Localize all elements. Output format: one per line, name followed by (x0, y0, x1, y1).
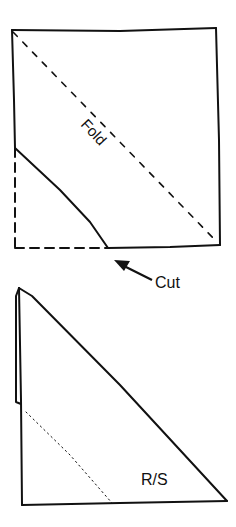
cut-arrow-icon (114, 260, 152, 280)
square-top-edge (12, 28, 216, 31)
square-left-edge-solid (12, 30, 15, 148)
square-step (12, 28, 220, 248)
cut-line (15, 148, 108, 248)
triangle-left-edge (19, 288, 22, 505)
fold-label: Fold (78, 115, 110, 148)
triangle-hypotenuse (19, 288, 227, 501)
square-bottom-edge-solid (108, 245, 220, 248)
triangle-bottom-edge (22, 501, 227, 505)
square-right-edge (216, 28, 220, 245)
cut-label: Cut (155, 274, 180, 291)
fold-line (13, 32, 217, 242)
right-side-label: R/S (141, 471, 168, 488)
triangle-step (16, 288, 227, 505)
stitch-line (26, 412, 112, 503)
fold-cut-diagram: Fold Cut R/S (0, 0, 236, 527)
